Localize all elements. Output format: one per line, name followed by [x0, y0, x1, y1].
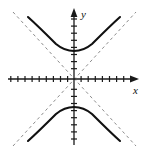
y-axis-label: y: [81, 9, 86, 20]
y-axis-arrowhead: [71, 8, 78, 17]
axes-group: [8, 14, 132, 145]
x-axis-label: x: [133, 85, 138, 96]
hyperbola-plot: [0, 0, 148, 151]
hyperbola-figure: y x: [0, 0, 148, 151]
x-axis-arrowhead: [130, 76, 139, 83]
